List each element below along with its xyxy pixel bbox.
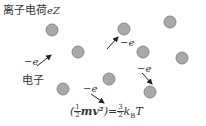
electron-charge-label: −e: [83, 83, 97, 94]
ion: [103, 73, 115, 85]
formula-T: T: [135, 105, 142, 118]
ion: [57, 83, 69, 95]
ion: [137, 46, 149, 58]
ion-charge-label: 离子电荷eZ: [3, 1, 60, 17]
energy-formula: (12mv²)=32kBT: [70, 104, 143, 120]
ions: [46, 16, 188, 98]
formula-mv2: mv²: [81, 105, 104, 118]
formula-equals: =: [108, 105, 117, 118]
ion: [176, 52, 188, 64]
electron-velocity-arrow: [91, 94, 104, 103]
electron-velocity-arrow: [37, 55, 51, 66]
electron-velocity-arrow: [142, 73, 152, 84]
electron-charge-label: −e: [120, 37, 134, 48]
electron-charge-label: −e: [24, 56, 38, 67]
ion-charge-symbol: eZ: [47, 5, 60, 16]
electron-label: 电子: [22, 71, 44, 87]
ion: [72, 46, 84, 58]
ion: [144, 86, 156, 98]
electron-velocity-arrow: [107, 37, 118, 49]
ion: [46, 24, 58, 36]
ion-charge-text: 离子电荷: [3, 4, 47, 17]
electron-charge-label: −e: [137, 63, 151, 74]
ion: [164, 16, 176, 28]
ion: [118, 23, 130, 35]
